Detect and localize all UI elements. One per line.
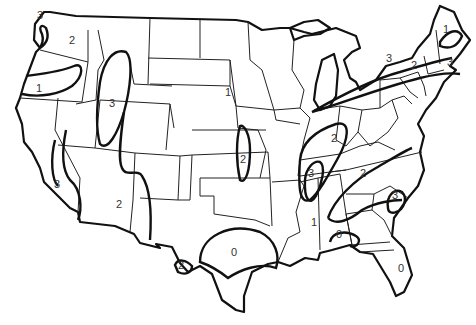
zone-label-ny-west: 3 bbox=[386, 52, 392, 64]
zone-label-ny: 2 bbox=[411, 59, 417, 71]
zone-az-boundary bbox=[120, 112, 151, 240]
zone-label-sd: 1 bbox=[225, 86, 231, 98]
zone-label-id-ut: 3 bbox=[109, 97, 115, 109]
zone-label-ms: 1 bbox=[311, 216, 317, 228]
zone-label-ca: 3 bbox=[54, 178, 60, 190]
zone-label-tn-va: 2 bbox=[360, 167, 366, 179]
zone-or-oval bbox=[22, 65, 81, 95]
zone-label-maine: 1 bbox=[443, 23, 449, 35]
zone-label-tx-rio: 2 bbox=[178, 259, 184, 271]
zone-label-fl: 0 bbox=[398, 262, 404, 274]
zone-label-tx: 0 bbox=[231, 246, 237, 258]
zone-label-wa-east: 2 bbox=[69, 34, 75, 46]
zone-in-ky bbox=[299, 123, 346, 200]
michigan-outline bbox=[314, 54, 338, 110]
zone-label-az: 2 bbox=[116, 198, 122, 210]
zone-label-ms-valley: 3 bbox=[308, 167, 314, 179]
zone-label-ks: 2 bbox=[240, 153, 246, 165]
us-zone-map: 3 2 1 3 3 2 1 2 2 0 1 3 2 3 2 3 2 3 1 0 … bbox=[0, 0, 476, 325]
zone-label-sc: 3 bbox=[392, 189, 398, 201]
zone-label-in-ky: 2 bbox=[331, 132, 337, 144]
zone-tx bbox=[200, 229, 277, 278]
zone-ca-lines bbox=[52, 130, 80, 220]
state-boundaries bbox=[20, 18, 444, 262]
zone-wa-coast bbox=[40, 26, 48, 48]
zone-label-gulf: 0 bbox=[336, 228, 342, 240]
zone-label-ma: 3 bbox=[447, 56, 453, 68]
zone-label-or: 1 bbox=[36, 82, 42, 94]
zone-label-wa-coast: 3 bbox=[37, 9, 43, 21]
